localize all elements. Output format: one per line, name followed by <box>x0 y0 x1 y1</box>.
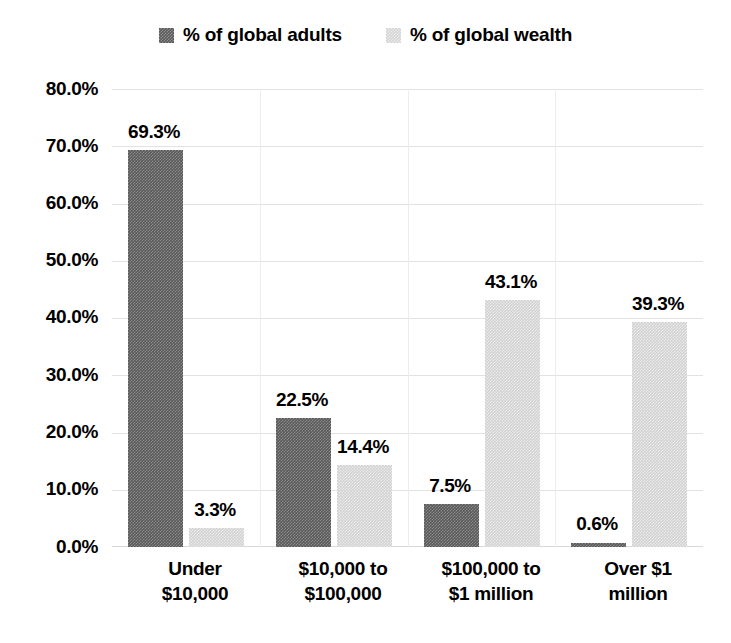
x-axis-label-10000-to-100000-line2: $100,000 <box>263 581 423 606</box>
plot-area: 69.3% 3.3% 22.5% 14.4% 7.5% 43.1% 0.6% 3… <box>112 89 703 547</box>
bar-value-wealth-over-1-million: 39.3% <box>613 293 703 315</box>
legend-label-wealth: % of global wealth <box>410 24 572 46</box>
chart-legend: % of global adults % of global wealth <box>0 24 731 46</box>
y-axis-label-20: 20.0% <box>0 421 98 443</box>
legend-item-wealth: % of global wealth <box>386 24 572 46</box>
bar-value-adults-over-1-million: 0.6% <box>552 513 642 535</box>
bar-value-wealth-under-10000: 3.3% <box>170 499 260 521</box>
x-axis-label-under-10000: Under $10,000 <box>115 556 275 606</box>
bar-adults-over-1-million[interactable] <box>571 543 626 547</box>
bar-group-under-10000: 69.3% 3.3% <box>112 89 260 547</box>
bar-wealth-100000-to-1-million[interactable] <box>485 300 540 547</box>
y-axis-label-10: 10.0% <box>0 478 98 500</box>
y-axis-label-50: 50.0% <box>0 249 98 271</box>
bar-adults-under-10000[interactable] <box>128 150 183 547</box>
x-axis-label-over-1-million-line1: Over $1 <box>558 556 718 581</box>
y-axis-label-70: 70.0% <box>0 135 98 157</box>
x-axis-label-10000-to-100000-line1: $10,000 to <box>263 556 423 581</box>
bar-group-over-1-million: 0.6% 39.3% <box>555 89 703 547</box>
y-axis-label-40: 40.0% <box>0 306 98 328</box>
y-axis-label-30: 30.0% <box>0 364 98 386</box>
bar-value-wealth-100000-to-1-million: 43.1% <box>466 271 556 293</box>
x-axis-label-100000-to-1-million-line2: $1 million <box>411 581 571 606</box>
legend-swatch-icon-wealth <box>386 28 401 43</box>
legend-swatch-icon-adults <box>159 28 174 43</box>
bar-value-adults-under-10000: 69.3% <box>109 121 199 143</box>
x-axis-label-10000-to-100000: $10,000 to $100,000 <box>263 556 423 606</box>
bar-group-10000-to-100000: 22.5% 14.4% <box>260 89 408 547</box>
x-axis-label-100000-to-1-million-line1: $100,000 to <box>411 556 571 581</box>
y-axis-label-80: 80.0% <box>0 78 98 100</box>
bar-wealth-10000-to-100000[interactable] <box>337 465 392 547</box>
legend-label-adults: % of global adults <box>183 24 342 46</box>
bar-value-adults-100000-to-1-million: 7.5% <box>405 475 495 497</box>
x-axis-label-under-10000-line1: Under <box>115 556 275 581</box>
x-axis-label-under-10000-line2: $10,000 <box>115 581 275 606</box>
y-axis-label-60: 60.0% <box>0 192 98 214</box>
bar-value-adults-10000-to-100000: 22.5% <box>257 389 347 411</box>
y-axis-label-0: 0.0% <box>0 536 98 558</box>
bar-value-wealth-10000-to-100000: 14.4% <box>318 436 408 458</box>
bar-group-100000-to-1-million: 7.5% 43.1% <box>408 89 556 547</box>
bar-adults-100000-to-1-million[interactable] <box>424 504 479 547</box>
x-axis-label-over-1-million: Over $1 million <box>558 556 718 606</box>
legend-item-adults: % of global adults <box>159 24 342 46</box>
x-axis-label-over-1-million-line2: million <box>558 581 718 606</box>
bar-chart: % of global adults % of global wealth 80… <box>0 0 731 643</box>
bar-wealth-under-10000[interactable] <box>189 528 244 547</box>
x-axis-label-100000-to-1-million: $100,000 to $1 million <box>411 556 571 606</box>
